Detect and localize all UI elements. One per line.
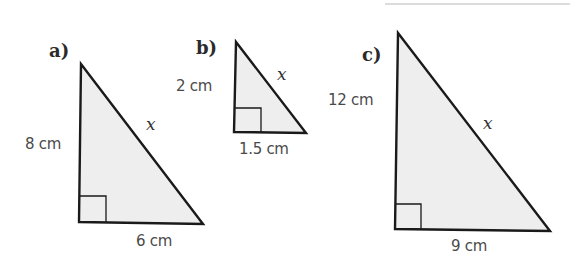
triangle-a-hypotenuse: x xyxy=(146,114,156,134)
triangle-a-label: a) xyxy=(49,40,69,61)
triangle-c-hypotenuse: x xyxy=(483,113,493,133)
triangle-b-label: b) xyxy=(196,37,217,58)
triangle-b-hypotenuse: x xyxy=(277,64,287,84)
triangle-b xyxy=(234,42,306,133)
triangle-c-label: c) xyxy=(362,44,381,65)
triangle-a-vertical-side: 8 cm xyxy=(25,135,61,153)
triangle-b-horizontal-side: 1.5 cm xyxy=(239,140,289,158)
triangles-canvas xyxy=(0,0,578,266)
right-triangles-figure: a) 8 cm 6 cm x b) 2 cm 1.5 cm x c) 12 cm… xyxy=(0,0,578,266)
triangle-c xyxy=(395,33,550,231)
triangle-b-vertical-side: 2 cm xyxy=(176,77,212,95)
triangle-c-vertical-side: 12 cm xyxy=(328,91,373,109)
triangle-c-horizontal-side: 9 cm xyxy=(451,237,487,255)
triangle-a-horizontal-side: 6 cm xyxy=(136,232,172,250)
